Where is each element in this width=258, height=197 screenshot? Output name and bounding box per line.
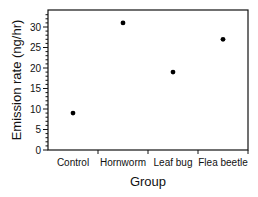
x-axis: ControlHornwormLeaf bugFlea beetle [57,150,248,168]
data-point [171,70,176,75]
y-tick-label: 30 [30,22,42,33]
scatter-chart: 051015202530 ControlHornwormLeaf bugFlea… [0,0,258,197]
x-tick-label: Flea beetle [198,157,248,168]
data-point [71,111,76,116]
y-tick-label: 0 [35,145,41,156]
y-tick-label: 10 [30,104,42,115]
y-tick-label: 25 [30,42,42,53]
y-tick-label: 20 [30,63,42,74]
y-axis-title: Emission rate (ng/hr) [9,20,24,141]
data-point [221,37,226,42]
data-points [71,21,226,116]
x-axis-title: Group [130,174,166,189]
data-point [121,21,126,26]
x-tick-label: Hornworm [100,157,146,168]
y-axis: 051015202530 [30,15,48,156]
y-tick-label: 5 [35,124,41,135]
y-tick-label: 15 [30,83,42,94]
x-tick-label: Leaf bug [154,157,193,168]
plot-frame [48,10,248,150]
x-tick-label: Control [57,157,89,168]
plot-border [48,10,248,150]
